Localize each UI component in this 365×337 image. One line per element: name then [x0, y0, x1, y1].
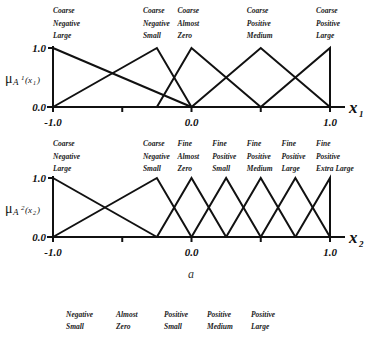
y-tick-label: 0.0: [32, 231, 46, 243]
bottom-set-labels: NegativeSmallAlmostZeroPositiveSmallPosi…: [65, 310, 276, 331]
y-axis-label-A: A: [12, 207, 19, 217]
y-tick-label: 1.0: [32, 42, 46, 54]
set-label: Small: [212, 164, 231, 173]
bottom-set-label: Medium: [206, 322, 233, 331]
bottom-set-label: Negative: [65, 310, 94, 319]
fuzzy-membership-figure: 1.00.0-1.00.01.0x1μA1(x1)CoarseNegativeL…: [0, 0, 365, 337]
membership-function-fine-almost-zero: [157, 178, 226, 237]
set-label: Fine: [316, 139, 331, 148]
set-label: Coarse: [53, 139, 75, 148]
set-label: Coarse: [316, 6, 338, 15]
membership-function-fine-positive-large: [261, 178, 330, 237]
figure-caption: a: [188, 267, 194, 281]
membership-chart-x1: 1.00.0-1.00.01.0x1μA1(x1)CoarseNegativeL…: [5, 6, 364, 128]
bottom-set-label: Positive: [164, 310, 189, 319]
set-label: Fine: [178, 139, 193, 148]
set-label: Fine: [281, 139, 296, 148]
x-axis-label-subscript: 1: [359, 109, 364, 119]
set-label: Large: [315, 31, 335, 40]
bottom-set-label: Positive: [251, 310, 276, 319]
set-label: Almost: [177, 19, 201, 28]
set-label: Large: [52, 31, 72, 40]
set-label: Small: [143, 31, 162, 40]
x-axis-label: x: [348, 98, 358, 117]
y-axis-label-A: A: [12, 77, 19, 87]
set-label: Negative: [142, 152, 171, 161]
set-label: Coarse: [178, 6, 200, 15]
x-tick-label: 1.0: [323, 116, 337, 128]
x-tick-label: 1.0: [323, 246, 337, 258]
y-axis-label-sup: 1: [21, 74, 25, 82]
x-axis-label: x: [348, 228, 358, 247]
set-label: Positive: [212, 152, 237, 161]
set-label: Negative: [142, 19, 171, 28]
x-tick-label: 0.0: [185, 246, 199, 258]
set-label: Extra Large: [315, 164, 354, 173]
y-axis-label-arg-sub: 2: [33, 210, 36, 216]
y-axis-label-arg: (x: [25, 75, 32, 85]
set-label: Medium: [246, 31, 273, 40]
bottom-set-label: Positive: [207, 310, 232, 319]
y-axis-label-close: ): [36, 75, 40, 85]
set-label: Large: [280, 164, 300, 173]
y-axis-label-arg-sub: 1: [33, 80, 36, 86]
set-label: Zero: [177, 164, 193, 173]
set-label: Negative: [52, 19, 81, 28]
y-axis-label-arg: (x: [25, 205, 32, 215]
bottom-set-label: Small: [66, 322, 85, 331]
set-label: Medium: [246, 164, 273, 173]
bottom-set-label: Almost: [115, 310, 139, 319]
set-label: Small: [143, 164, 162, 173]
bottom-set-label: Small: [164, 322, 183, 331]
membership-function-fine-positive-medium: [226, 178, 295, 237]
y-axis-label-close: ): [36, 205, 40, 215]
set-label: Fine: [212, 139, 227, 148]
set-label: Positive: [316, 152, 341, 161]
set-label: Coarse: [143, 6, 165, 15]
set-label: Fine: [247, 139, 262, 148]
set-label: Large: [52, 164, 72, 173]
membership-function-coarse-negative-large: [53, 48, 192, 107]
set-label: Positive: [247, 19, 272, 28]
bottom-set-label: Zero: [115, 322, 131, 331]
set-label: Almost: [177, 152, 201, 161]
set-label: Coarse: [53, 6, 75, 15]
set-label: Negative: [52, 152, 81, 161]
x-axis-label-subscript: 2: [358, 239, 364, 249]
membership-chart-x2: 1.00.0-1.00.01.0x2μA2(x2)CoarseNegativeL…: [5, 139, 364, 258]
membership-function-fine-positive-small: [192, 178, 261, 237]
set-label: Positive: [316, 19, 341, 28]
x-tick-label: 0.0: [185, 116, 199, 128]
x-tick-label: -1.0: [44, 246, 62, 258]
y-tick-label: 0.0: [32, 101, 46, 113]
set-label: Zero: [177, 31, 193, 40]
bottom-set-label: Large: [250, 322, 270, 331]
set-label: Positive: [281, 152, 306, 161]
set-label: Positive: [247, 152, 272, 161]
y-tick-label: 1.0: [32, 172, 46, 184]
set-label: Coarse: [247, 6, 269, 15]
y-axis-label: μ: [5, 71, 13, 86]
x-tick-label: -1.0: [44, 116, 62, 128]
y-axis-label: μ: [5, 201, 13, 216]
membership-function-coarse-negative-small: [53, 178, 192, 237]
set-label: Coarse: [143, 139, 165, 148]
membership-function-coarse-positive-medium: [192, 48, 331, 107]
